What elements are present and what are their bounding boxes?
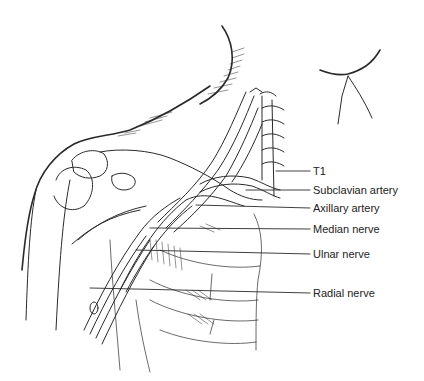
cut-vessel	[90, 302, 98, 314]
label-radial-nerve: Radial nerve	[313, 287, 375, 299]
rib-cage	[150, 214, 261, 350]
leader-axillary-artery	[196, 205, 310, 208]
leader-radial-nerve	[90, 288, 310, 293]
jaw-outline	[320, 50, 380, 75]
vertebral-column	[262, 96, 274, 196]
humeral-head	[54, 167, 93, 209]
shoulder-outline	[22, 86, 210, 270]
label-ulnar-nerve: Ulnar nerve	[313, 248, 370, 260]
leader-median-nerve	[150, 228, 310, 229]
label-t1: T1	[313, 165, 326, 177]
jaw-line	[338, 76, 372, 124]
arm-nerves	[84, 198, 180, 344]
clavicle	[100, 150, 262, 200]
muscle-shading	[150, 224, 220, 324]
axillary-artery-2	[126, 206, 192, 292]
label-axillary-artery: Axillary artery	[313, 202, 380, 214]
coracoid	[112, 173, 136, 190]
leader-ulnar-nerve	[136, 250, 310, 254]
label-median-nerve: Median nerve	[313, 223, 380, 235]
neck-shading	[208, 48, 244, 94]
label-subclavian-artery: Subclavian artery	[313, 184, 398, 196]
